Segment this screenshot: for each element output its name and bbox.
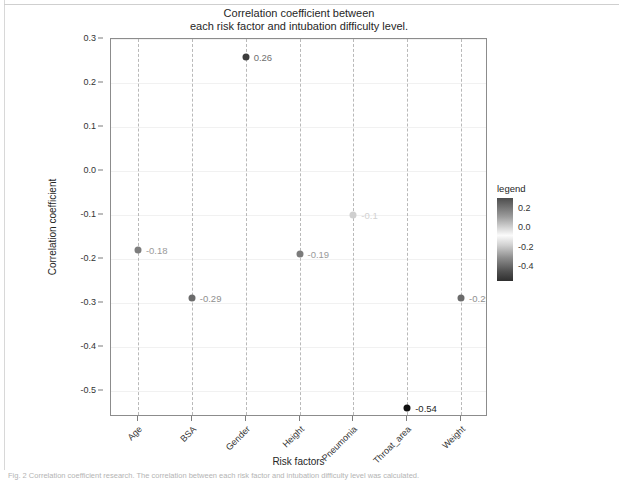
page-edge-line-top xyxy=(4,4,619,5)
y-tick-mark xyxy=(98,257,103,258)
gridline-horizontal xyxy=(111,391,486,392)
data-label-throat_area: -0.54 xyxy=(415,403,437,414)
y-tick-label: -0.3 xyxy=(80,297,96,307)
x-tick-mark xyxy=(137,416,138,421)
gridline-throat_area xyxy=(407,39,408,415)
gridline-horizontal xyxy=(111,171,486,172)
data-label-age: -0.18 xyxy=(146,244,168,255)
y-axis-title: Correlation coefficient xyxy=(47,179,58,276)
data-point-throat_area[interactable] xyxy=(404,405,411,412)
data-point-height[interactable] xyxy=(296,251,303,258)
x-tick-mark xyxy=(245,416,246,421)
y-tick-mark xyxy=(98,301,103,302)
data-point-age[interactable] xyxy=(134,246,141,253)
data-label-bsa: -0.29 xyxy=(200,293,222,304)
data-point-bsa[interactable] xyxy=(188,295,195,302)
y-tick-mark xyxy=(98,213,103,214)
data-point-pneumonia[interactable] xyxy=(350,211,357,218)
data-label-pneumonia: -0.1 xyxy=(361,209,377,220)
gridline-horizontal xyxy=(111,39,486,40)
legend-tick-label: -0.4 xyxy=(518,261,534,271)
gridline-bsa xyxy=(192,39,193,415)
y-tick-label: -0.2 xyxy=(80,253,96,263)
gridline-gender xyxy=(246,39,247,415)
y-tick-mark xyxy=(98,38,103,39)
x-tick-mark xyxy=(299,416,300,421)
data-point-weight[interactable] xyxy=(458,295,465,302)
gridline-horizontal xyxy=(111,83,486,84)
y-tick-mark xyxy=(98,81,103,82)
y-tick-mark xyxy=(98,169,103,170)
x-tick-mark xyxy=(406,416,407,421)
chart-title: Correlation coefficient between each ris… xyxy=(110,7,488,33)
figure-caption: Fig. 2 Correlation coefficient research.… xyxy=(8,471,615,480)
gridline-horizontal xyxy=(111,259,486,260)
y-tick-mark xyxy=(98,345,103,346)
legend-tick-label: 0.2 xyxy=(518,203,531,213)
gridline-horizontal xyxy=(111,127,486,128)
x-tick-mark xyxy=(191,416,192,421)
legend-title: legend xyxy=(497,183,526,194)
gridline-height xyxy=(300,39,301,415)
figure-container: Correlation coefficient between each ris… xyxy=(0,0,623,480)
data-point-gender[interactable] xyxy=(242,53,249,60)
plot-panel: -0.18-0.290.26-0.19-0.1-0.54-0.29 xyxy=(110,38,487,416)
gridline-horizontal xyxy=(111,303,486,304)
x-tick-mark xyxy=(460,416,461,421)
data-label-height: -0.19 xyxy=(308,249,330,260)
y-tick-mark xyxy=(98,389,103,390)
data-label-weight: -0.29 xyxy=(469,293,487,304)
legend-tick-label: 0.0 xyxy=(518,222,531,232)
gridline-horizontal xyxy=(111,215,486,216)
y-tick-label: 0.2 xyxy=(83,77,96,87)
gridline-horizontal xyxy=(111,347,486,348)
legend-colorbar xyxy=(497,198,513,281)
y-tick-label: 0.3 xyxy=(83,33,96,43)
legend: legend 0.20.0-0.2-0.4 xyxy=(495,183,590,293)
gridline-pneumonia xyxy=(353,39,354,415)
x-tick-mark xyxy=(352,416,353,421)
y-tick-label: 0.1 xyxy=(83,121,96,131)
data-label-gender: 0.26 xyxy=(254,51,273,62)
y-tick-label: -0.5 xyxy=(80,385,96,395)
legend-tick-label: -0.2 xyxy=(518,242,534,252)
gridline-weight xyxy=(461,39,462,415)
y-tick-label: 0.0 xyxy=(83,165,96,175)
y-tick-label: -0.1 xyxy=(80,209,96,219)
y-tick-label: -0.4 xyxy=(80,341,96,351)
y-tick-mark xyxy=(98,125,103,126)
x-axis-title: Risk factors xyxy=(110,456,487,467)
gridline-age xyxy=(138,39,139,415)
